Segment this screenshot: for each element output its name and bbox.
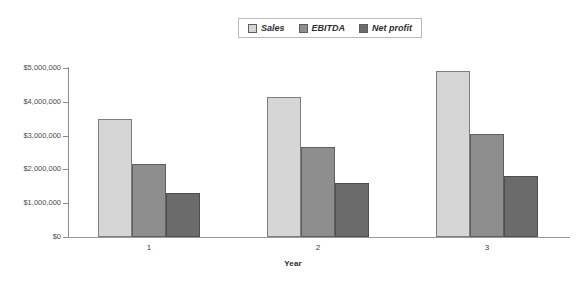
bar-group (98, 68, 200, 237)
legend-swatch-ebitda-icon (299, 24, 308, 33)
y-axis-tick-label: $1,000,000 (23, 199, 61, 207)
bars-layer (68, 68, 570, 237)
bar-netprofit (504, 176, 538, 237)
bar-sales (436, 71, 470, 237)
legend-label-ebitda: EBITDA (312, 23, 346, 33)
y-axis-tick-label-wrap: $3,000,000 (0, 132, 61, 140)
y-axis-tick-label: $0 (53, 233, 61, 241)
y-axis-tick-label: $4,000,000 (23, 98, 61, 106)
bar-ebitda (301, 147, 335, 237)
legend-swatch-sales-icon (248, 24, 257, 33)
legend-label-sales: Sales (261, 23, 285, 33)
y-axis-tick-label-wrap: $1,000,000 (0, 199, 61, 207)
y-axis-tick-label-wrap: $4,000,000 (0, 98, 61, 106)
legend-swatch-net-profit-icon (359, 24, 368, 33)
x-axis-title: Year (0, 259, 586, 268)
legend-item-net-profit: Net profit (359, 23, 412, 33)
bar-chart: Sales EBITDA Net profit $0$1,000,000$2,0… (0, 0, 586, 284)
x-axis-category-label: 3 (457, 243, 517, 253)
y-axis-tick-label-wrap: $0 (0, 233, 61, 241)
legend-item-sales: Sales (248, 23, 285, 33)
chart-legend: Sales EBITDA Net profit (238, 18, 422, 38)
y-axis-tick-label-wrap: $2,000,000 (0, 165, 61, 173)
bar-ebitda (132, 164, 166, 237)
bar-ebitda (470, 134, 504, 237)
legend-label-net-profit: Net profit (372, 23, 412, 33)
bar-netprofit (335, 183, 369, 237)
x-axis-line (68, 237, 570, 238)
y-axis-tick-label-wrap: $5,000,000 (0, 64, 61, 72)
bar-sales (267, 97, 301, 237)
bar-sales (98, 119, 132, 237)
x-axis-category-label: 2 (288, 243, 348, 253)
bar-group (267, 68, 369, 237)
y-axis-tick-label: $2,000,000 (23, 165, 61, 173)
legend-item-ebitda: EBITDA (299, 23, 346, 33)
bar-group (436, 68, 538, 237)
bar-netprofit (166, 193, 200, 237)
x-axis-category-label: 1 (119, 243, 179, 253)
y-axis-tick-label: $3,000,000 (23, 132, 61, 140)
y-axis-tick (63, 237, 68, 238)
y-axis-tick-label: $5,000,000 (23, 64, 61, 72)
